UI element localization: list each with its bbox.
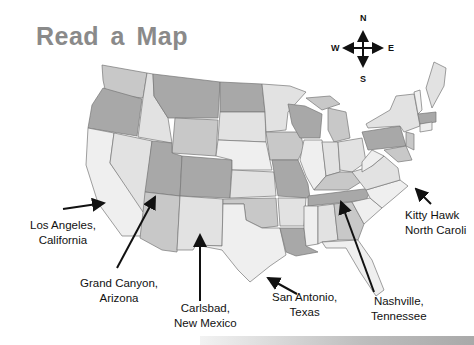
label-carlsbad: Carlsbad, New Mexico bbox=[174, 301, 237, 331]
state-north-dakota bbox=[220, 82, 265, 112]
state-new-jersey bbox=[406, 132, 414, 150]
arrow-kitty-hawk bbox=[416, 189, 431, 204]
arrow-los-angeles bbox=[63, 203, 104, 209]
state-connecticut bbox=[420, 122, 432, 132]
state-arizona bbox=[140, 192, 180, 252]
state-florida bbox=[322, 240, 384, 296]
state-iowa bbox=[266, 132, 304, 160]
state-michigan bbox=[328, 108, 350, 142]
state-maine bbox=[426, 62, 446, 108]
state-michigan-up bbox=[306, 96, 340, 110]
label-san-antonio: San Antonio, Texas bbox=[272, 290, 337, 320]
label-kitty-hawk: Kitty Hawk North Caroli bbox=[405, 208, 466, 238]
label-grand-canyon: Grand Canyon, Arizona bbox=[80, 276, 158, 306]
state-new-york bbox=[366, 94, 420, 132]
label-los-angeles: Los Angeles, California bbox=[30, 218, 96, 248]
state-massachusetts bbox=[418, 112, 436, 124]
label-nashville: Nashville, Tennessee bbox=[371, 294, 427, 324]
state-arkansas bbox=[278, 198, 306, 226]
state-mississippi bbox=[304, 206, 318, 246]
state-wyoming bbox=[172, 118, 218, 156]
state-pennsylvania bbox=[362, 126, 406, 150]
page-edge-shadow bbox=[200, 336, 474, 345]
state-south-dakota bbox=[218, 112, 266, 142]
state-kansas bbox=[230, 170, 276, 198]
state-colorado bbox=[180, 156, 232, 198]
